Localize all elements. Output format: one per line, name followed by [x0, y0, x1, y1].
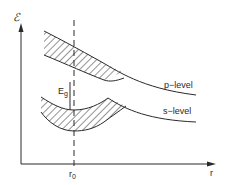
energy-band-diagram: ℰ r r0 Eg p−level s−level [0, 0, 228, 185]
gap-label: Eg [58, 86, 68, 98]
x-axis-arrow-icon [207, 162, 216, 167]
p-band-hatched [44, 31, 124, 80]
r0-label: r0 [69, 169, 76, 180]
x-axis-label: r [210, 168, 213, 178]
s-band-hatched [41, 97, 126, 131]
y-axis-label: ℰ [13, 11, 21, 23]
x-axis [21, 162, 216, 167]
y-axis-arrow-icon [19, 23, 24, 32]
y-axis [19, 23, 24, 164]
s-level-label: s−level [163, 106, 191, 116]
p-level-label: p−level [164, 80, 193, 90]
